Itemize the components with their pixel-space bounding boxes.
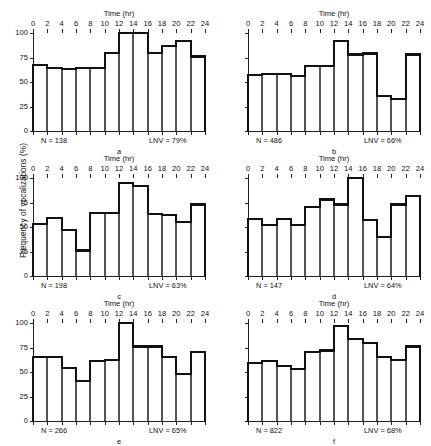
- x-tick-bottom-f-16: [363, 421, 364, 425]
- n-label-f: N = 822: [256, 426, 282, 435]
- x-tick-f-16: [363, 319, 364, 323]
- x-tick-bottom-f-8: [305, 421, 306, 425]
- x-tick-bottom-f-20: [391, 421, 392, 425]
- x-tick-f-22: [406, 319, 407, 323]
- step-edge-f-5: [319, 349, 321, 353]
- step-top-f-4: [305, 351, 319, 353]
- step-top-f-1: [262, 360, 276, 362]
- bar-f-0: [248, 363, 262, 421]
- x-tick-bottom-f-2: [262, 421, 263, 425]
- x-tick-bottom-f-6: [291, 421, 292, 425]
- x-tick-f-12: [334, 319, 335, 323]
- bar-f-1: [262, 361, 276, 421]
- x-tick-label-f-18: 18: [370, 309, 384, 318]
- step-top-f-7: [348, 338, 362, 340]
- x-tick-f-10: [320, 319, 321, 323]
- step-edge-f-2: [276, 360, 278, 367]
- time-axis-title-f: Time (hr): [304, 299, 364, 308]
- bar-f-6: [334, 326, 348, 421]
- step-edge-f-11: [405, 345, 407, 361]
- x-tick-bottom-f-10: [320, 421, 321, 425]
- bar-f-10: [391, 360, 405, 421]
- x-tick-label-f-2: 2: [255, 309, 269, 318]
- x-tick-f-8: [305, 319, 306, 323]
- x-tick-label-f-24: 24: [413, 309, 427, 318]
- x-tick-bottom-f-12: [334, 421, 335, 425]
- y-tick-f-75: [245, 348, 248, 349]
- x-tick-label-f-22: 22: [399, 309, 413, 318]
- bar-f-7: [348, 339, 362, 421]
- x-tick-label-f-20: 20: [384, 309, 398, 318]
- step-edge-f-1: [261, 360, 263, 364]
- step-edge-f-8: [362, 338, 364, 344]
- step-edge-f-0: [247, 362, 249, 422]
- vocalization-figure: Frequency of vocalizations (%) Time (hr)…: [0, 0, 431, 446]
- bar-f-11: [406, 347, 420, 421]
- step-top-f-9: [377, 356, 391, 358]
- bar-f-4: [305, 352, 319, 421]
- step-top-f-10: [391, 359, 405, 361]
- step-top-f-6: [334, 325, 348, 327]
- step-top-f-0: [248, 362, 262, 364]
- step-edge-f-3: [290, 365, 292, 370]
- panel-f: Time (hr)024681012141618202224N = 822LNV…: [0, 0, 431, 446]
- bar-f-5: [320, 350, 334, 421]
- x-tick-label-f-4: 4: [270, 309, 284, 318]
- x-tick-bottom-f-22: [406, 421, 407, 425]
- x-tick-f-4: [277, 319, 278, 323]
- x-tick-label-f-16: 16: [356, 309, 370, 318]
- x-tick-f-14: [348, 319, 349, 323]
- step-edge-f-12: [419, 345, 421, 422]
- step-edge-f-10: [390, 356, 392, 361]
- x-tick-label-f-6: 6: [284, 309, 298, 318]
- step-edge-f-6: [333, 325, 335, 352]
- step-top-f-5: [320, 349, 334, 351]
- x-tick-label-f-0: 0: [241, 309, 255, 318]
- x-tick-f-0: [248, 319, 249, 323]
- lnv-label-f: LNV = 68%: [364, 426, 402, 435]
- y-tick-f-100: [245, 323, 248, 324]
- bar-f-8: [363, 343, 377, 421]
- bar-f-9: [377, 357, 391, 421]
- x-tick-label-f-14: 14: [341, 309, 355, 318]
- bar-f-2: [277, 366, 291, 421]
- x-tick-bottom-f-14: [348, 421, 349, 425]
- x-tick-f-24: [420, 319, 421, 323]
- bar-f-3: [291, 369, 305, 421]
- step-top-f-3: [291, 368, 305, 370]
- step-edge-f-7: [347, 325, 349, 340]
- step-edge-f-9: [376, 342, 378, 359]
- x-tick-bottom-f-18: [377, 421, 378, 425]
- step-top-f-11: [406, 345, 420, 347]
- step-top-f-8: [363, 342, 377, 344]
- x-tick-bottom-f-4: [277, 421, 278, 425]
- x-tick-label-f-10: 10: [313, 309, 327, 318]
- step-edge-f-4: [304, 351, 306, 370]
- x-tick-f-6: [291, 319, 292, 323]
- x-tick-label-f-8: 8: [298, 309, 312, 318]
- x-tick-label-f-12: 12: [327, 309, 341, 318]
- panel-letter-f: f: [324, 437, 344, 446]
- step-top-f-2: [277, 365, 291, 367]
- x-tick-f-18: [377, 319, 378, 323]
- x-tick-f-20: [391, 319, 392, 323]
- x-tick-f-2: [262, 319, 263, 323]
